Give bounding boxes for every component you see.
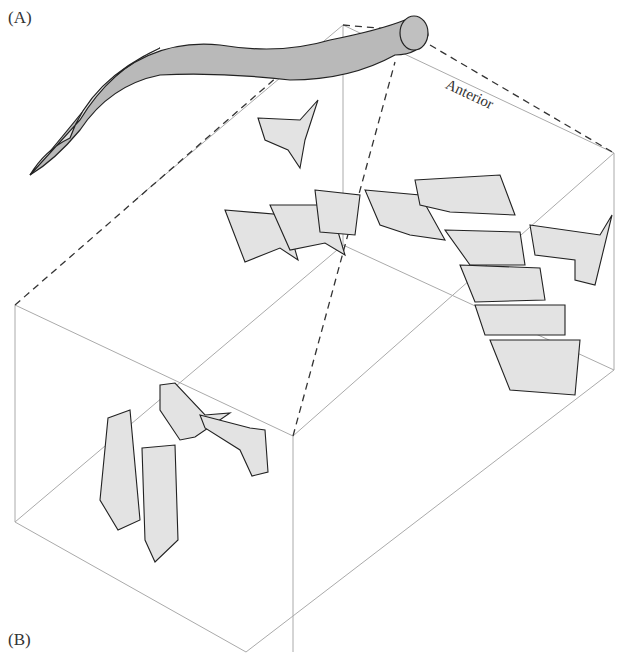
apparatus-box: [15, 25, 614, 652]
m-element: [258, 100, 318, 168]
conodont-elements: [100, 100, 612, 562]
conodont-body: [30, 16, 428, 175]
s-element-5: [415, 175, 515, 215]
pa-element-1: [475, 305, 565, 335]
p-element-right: [142, 445, 178, 562]
pb-element-2: [460, 265, 545, 302]
p-element-left: [100, 410, 140, 530]
s-element-b: [200, 415, 268, 476]
pb-element-1: [445, 230, 525, 265]
s-element-3: [315, 190, 360, 235]
s-element-6: [530, 215, 612, 285]
diagram-canvas: [0, 0, 623, 660]
pa-element-2: [490, 340, 580, 395]
